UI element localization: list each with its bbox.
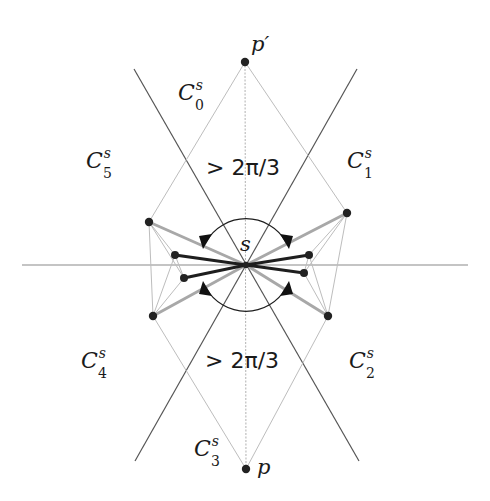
cone-diagram: p′ p s > 2π/3 > 2π/3 Cs0 Cs1 Cs2 Cs3 Cs4… xyxy=(0,0,490,501)
node-inner-upper-right xyxy=(305,251,313,259)
node-inner-upper-left xyxy=(171,251,179,259)
cone-label-c3: Cs3 xyxy=(194,436,218,461)
node-inner-lower-right xyxy=(300,269,308,277)
point-label-p-prime: p′ xyxy=(251,32,269,56)
node-outer-lower-left xyxy=(149,312,157,320)
lower-angle-label: > 2π/3 xyxy=(205,348,279,373)
node-p-prime xyxy=(241,58,249,66)
center-label-s: s xyxy=(240,232,251,256)
node-p xyxy=(242,465,250,473)
cone-label-c5: Cs5 xyxy=(86,148,110,173)
cone-label-c2: Cs2 xyxy=(349,348,373,373)
node-inner-lower-left xyxy=(180,274,188,282)
upper-angle-label: > 2π/3 xyxy=(206,155,280,180)
dark-edges xyxy=(175,255,309,278)
node-outer-upper-left xyxy=(145,218,153,226)
cone-label-c4: Cs4 xyxy=(81,348,105,373)
cone-label-c0: Cs0 xyxy=(178,80,202,105)
node-outer-upper-right xyxy=(343,209,351,217)
thin-edges-bottom xyxy=(153,316,328,469)
point-label-p: p xyxy=(257,455,270,479)
node-outer-lower-right xyxy=(324,312,332,320)
cone-label-c1: Cs1 xyxy=(347,148,371,173)
node-center-s xyxy=(243,262,249,268)
